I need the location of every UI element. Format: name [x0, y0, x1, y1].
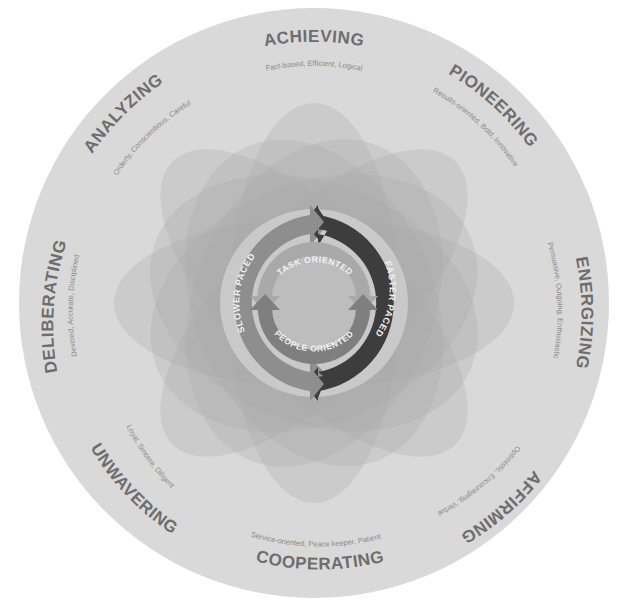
- personality-wheel: SLOWER PACED FASTER PACED TASK ORIENTED …: [0, 0, 629, 607]
